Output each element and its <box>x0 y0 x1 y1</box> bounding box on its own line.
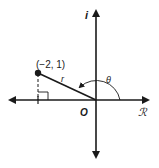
right-angle-marker <box>38 92 48 100</box>
imaginary-axis-label: i <box>85 9 89 21</box>
angle-label: θ <box>106 75 111 85</box>
radius-line <box>38 73 96 100</box>
point-marker <box>35 70 41 76</box>
point-label: (−2, 1) <box>36 59 65 70</box>
radius-label: r <box>61 74 65 84</box>
origin-label: O <box>80 107 88 118</box>
complex-plane-diagram: (−2, 1) r θ O ℛ i <box>0 0 159 168</box>
angle-arc-icon <box>80 80 120 100</box>
real-axis-label: ℛ <box>138 106 148 118</box>
